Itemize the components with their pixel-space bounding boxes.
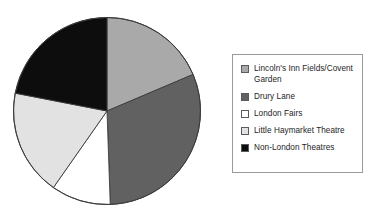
legend-item-label: Lincoln's Inn Fields/Covent Garden — [254, 63, 353, 85]
legend-item-label: Little Haymarket Theatre — [254, 125, 345, 136]
legend-item[interactable]: Lincoln's Inn Fields/Covent Garden — [241, 63, 356, 85]
pie-chart-figure: Lincoln's Inn Fields/Covent GardenDrury … — [0, 0, 372, 220]
legend-item[interactable]: London Fairs — [241, 108, 356, 119]
legend: Lincoln's Inn Fields/Covent GardenDrury … — [232, 54, 363, 173]
legend-item[interactable]: Non-London Theatres — [241, 142, 356, 153]
legend-item[interactable]: Little Haymarket Theatre — [241, 125, 356, 136]
legend-item-label: Non-London Theatres — [254, 142, 334, 153]
legend-item-label: London Fairs — [254, 108, 302, 119]
legend-item-label: Drury Lane — [254, 91, 295, 102]
legend-swatch-little-haymarket — [241, 127, 249, 135]
pie-chart-svg — [13, 17, 201, 205]
legend-swatch-london-fairs — [241, 110, 249, 118]
legend-swatch-non-london — [241, 144, 249, 152]
legend-item[interactable]: Drury Lane — [241, 91, 356, 102]
pie-chart — [13, 17, 201, 205]
legend-swatch-lincolns-inn-fields — [241, 65, 249, 73]
legend-swatch-drury-lane — [241, 93, 249, 101]
